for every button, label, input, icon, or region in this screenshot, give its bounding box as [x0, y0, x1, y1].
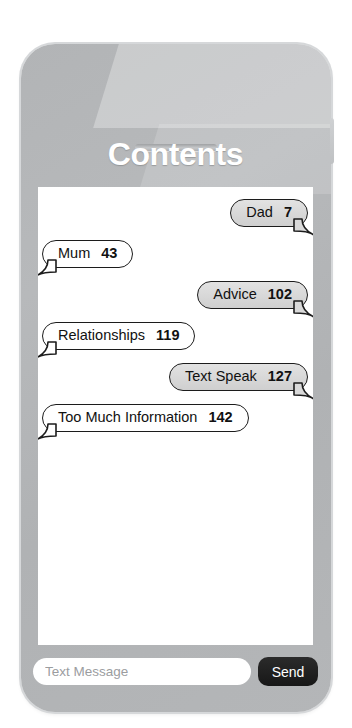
chat-bubble-label: Relationships: [58, 326, 145, 345]
send-button[interactable]: Send: [258, 657, 318, 686]
chat-bubble-tail-icon: [38, 260, 58, 276]
chat-bubble-page-number: 127: [268, 367, 292, 386]
chat-bubble[interactable]: Advice102: [197, 281, 308, 309]
chat-bubble-tail-icon: [292, 301, 313, 317]
chat-bubble-page-number: 43: [101, 244, 117, 263]
message-row: Advice102: [38, 281, 313, 309]
chat-bubble-page-number: 119: [156, 326, 179, 345]
message-row: Mum43: [38, 240, 313, 268]
message-list: Dad7Mum43Advice102Relationships119Text S…: [38, 187, 313, 645]
message-row: Text Speak127: [38, 363, 313, 391]
chat-bubble-page-number: 142: [208, 408, 232, 427]
message-row: Too Much Information142: [38, 404, 313, 432]
page-title: Contents: [38, 134, 313, 174]
chat-bubble-tail-icon: [292, 219, 313, 235]
chat-bubble-tail-icon: [38, 424, 58, 440]
message-row: Relationships119: [38, 322, 313, 350]
side-button[interactable]: [330, 118, 334, 164]
chat-bubble[interactable]: Mum43: [42, 240, 133, 268]
chat-bubble-tail-icon: [292, 383, 313, 399]
chat-bubble-page-number: 7: [284, 203, 292, 222]
chat-bubble-label: Text Speak: [185, 367, 257, 386]
chat-bubble-label: Dad: [246, 203, 273, 222]
chat-bubble[interactable]: Relationships119: [42, 322, 195, 350]
phone-screen: Dad7Mum43Advice102Relationships119Text S…: [38, 187, 313, 645]
chat-bubble[interactable]: Dad7: [230, 199, 308, 227]
message-input[interactable]: [33, 658, 251, 685]
chat-bubble-label: Advice: [213, 285, 257, 304]
compose-bar: Send: [33, 655, 318, 688]
chat-bubble-label: Too Much Information: [58, 408, 197, 427]
chat-bubble[interactable]: Text Speak127: [169, 363, 308, 391]
chat-bubble-tail-icon: [38, 342, 58, 358]
chat-bubble-label: Mum: [58, 244, 90, 263]
chat-bubble-page-number: 102: [268, 285, 292, 304]
message-row: Dad7: [38, 199, 313, 227]
chat-bubble[interactable]: Too Much Information142: [42, 404, 249, 432]
